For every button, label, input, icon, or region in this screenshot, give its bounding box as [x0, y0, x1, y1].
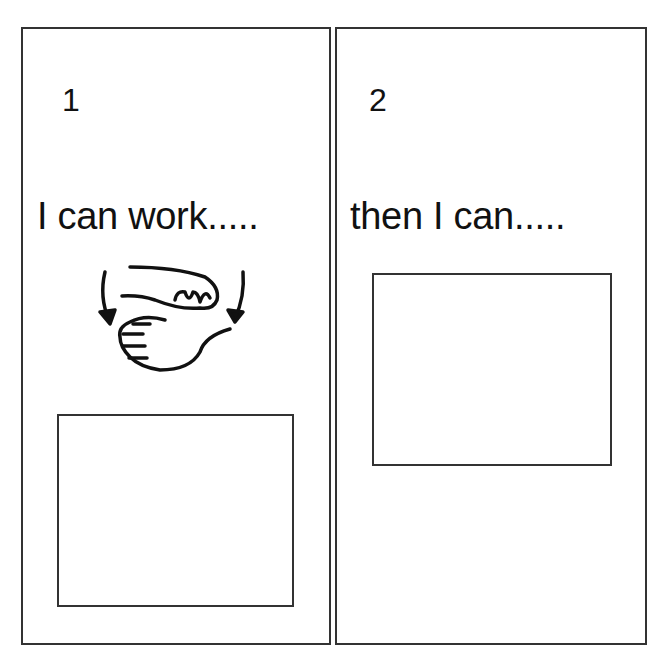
panel-caption: I can work..... — [37, 197, 258, 235]
empty-picture-box — [372, 273, 612, 466]
panel-second: 2 then I can..... — [335, 27, 647, 645]
work-sign-icon — [85, 252, 265, 382]
panel-first: 1 I can work..... — [21, 27, 331, 645]
panel-number: 1 — [62, 84, 80, 116]
panel-number: 2 — [369, 84, 387, 116]
empty-picture-box — [57, 414, 294, 607]
panel-caption: then I can..... — [350, 197, 565, 235]
